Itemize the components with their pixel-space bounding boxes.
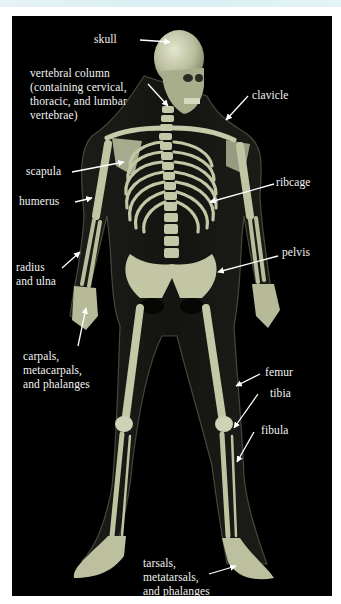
skeleton-figure: skull vertebral column (containing cervi… [12,16,332,596]
arrow-clavicle [226,96,248,120]
label-ribcage: ribcage [276,175,311,189]
label-tarsals: tarsals, metatarsals, and phalanges [143,556,210,596]
label-clavicle: clavicle [252,88,289,102]
label-humerus: humerus [19,194,59,208]
arrow-radius-ulna [62,252,80,268]
arrow-femur [236,374,260,386]
label-skull: skull [94,32,117,46]
label-fibula: fibula [261,423,288,437]
label-vertebral-column: vertebral column (containing cervical, t… [30,66,127,122]
label-femur: femur [265,365,293,379]
arrow-tarsals [209,566,236,574]
label-scapula: scapula [26,164,61,178]
label-tibia: tibia [270,386,291,400]
top-band [0,0,341,7]
label-pelvis: pelvis [282,245,310,259]
label-radius-ulna: radius and ulna [16,260,56,288]
label-carpals: carpals, metacarpals, and phalanges [23,349,90,391]
